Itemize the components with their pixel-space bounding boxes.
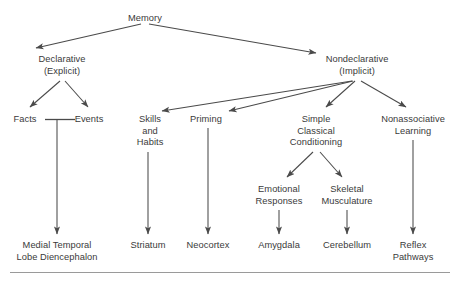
node-facts: Facts <box>14 114 37 126</box>
node-cerebellum-line-0: Cerebellum <box>323 240 371 252</box>
edge-declarative-facts <box>30 81 60 107</box>
node-medial-temporal-lobe-diencephalon: Medial Temporal Lobe Diencephalon <box>17 240 98 263</box>
node-declarative-line-0: Declarative <box>38 54 85 66</box>
node-skeletal-line-0: Skeletal <box>321 184 372 196</box>
node-skills-line-0: Skills <box>137 114 164 126</box>
node-skeletal-line-1: Musculature <box>321 196 372 208</box>
edge-simple-cc-skeletal <box>320 152 342 177</box>
node-emotional-line-1: Responses <box>256 196 303 208</box>
node-memory-line-0: Memory <box>128 13 162 25</box>
node-nonassociative-line-0: Nonassociative <box>381 114 445 126</box>
node-priming-line-0: Priming <box>190 114 222 126</box>
node-neocortex-line-0: Neocortex <box>187 240 230 252</box>
node-nonassociative-line-1: Learning <box>381 126 445 138</box>
node-emotional-responses: Emotional Responses <box>256 184 303 207</box>
node-facts-line-0: Facts <box>14 114 37 126</box>
node-nonassociative-learning: Nonassociative Learning <box>381 114 445 137</box>
node-nondeclarative: Nondeclarative (Implicit) <box>326 54 389 77</box>
node-declarative-line-1: (Explicit) <box>38 66 85 78</box>
node-mtl-line-1: Lobe Diencephalon <box>17 252 98 264</box>
edge-nondeclarative-nonassociative <box>361 81 406 107</box>
node-nondeclarative-line-1: (Implicit) <box>326 66 389 78</box>
node-simple-cc-line-1: Classical <box>290 126 342 138</box>
node-neocortex: Neocortex <box>187 240 230 252</box>
node-skills-line-2: Habits <box>137 137 164 149</box>
node-skills-and-habits: Skills and Habits <box>137 114 164 149</box>
edge-nondeclarative-skills <box>162 81 352 111</box>
node-amygdala-line-0: Amygdala <box>258 240 300 252</box>
node-striatum: Striatum <box>130 240 165 252</box>
edge-declarative-events <box>65 81 88 107</box>
edge-simple-cc-emotional <box>287 152 313 177</box>
node-memory: Memory <box>128 13 162 25</box>
node-priming: Priming <box>190 114 222 126</box>
memory-taxonomy-diagram: Memory Declarative (Explicit) Nondeclara… <box>0 0 456 284</box>
node-skills-line-1: and <box>137 126 164 138</box>
node-events: Events <box>75 114 104 126</box>
node-reflex-line-0: Reflex <box>393 240 434 252</box>
node-striatum-line-0: Striatum <box>130 240 165 252</box>
node-simple-classical-conditioning: Simple Classical Conditioning <box>290 114 342 149</box>
node-declarative: Declarative (Explicit) <box>38 54 85 77</box>
edge-nondeclarative-priming <box>229 81 353 111</box>
edge-memory-nondeclarative <box>149 24 316 53</box>
node-reflex-line-1: Pathways <box>393 252 434 264</box>
node-simple-cc-line-0: Simple <box>290 114 342 126</box>
node-reflex-pathways: Reflex Pathways <box>393 240 434 263</box>
node-nondeclarative-line-0: Nondeclarative <box>326 54 389 66</box>
node-cerebellum: Cerebellum <box>323 240 371 252</box>
edge-memory-declarative <box>36 24 141 48</box>
node-simple-cc-line-2: Conditioning <box>290 137 342 149</box>
node-amygdala: Amygdala <box>258 240 300 252</box>
node-mtl-line-0: Medial Temporal <box>17 240 98 252</box>
node-events-line-0: Events <box>75 114 104 126</box>
node-emotional-line-0: Emotional <box>256 184 303 196</box>
node-skeletal-musculature: Skeletal Musculature <box>321 184 372 207</box>
